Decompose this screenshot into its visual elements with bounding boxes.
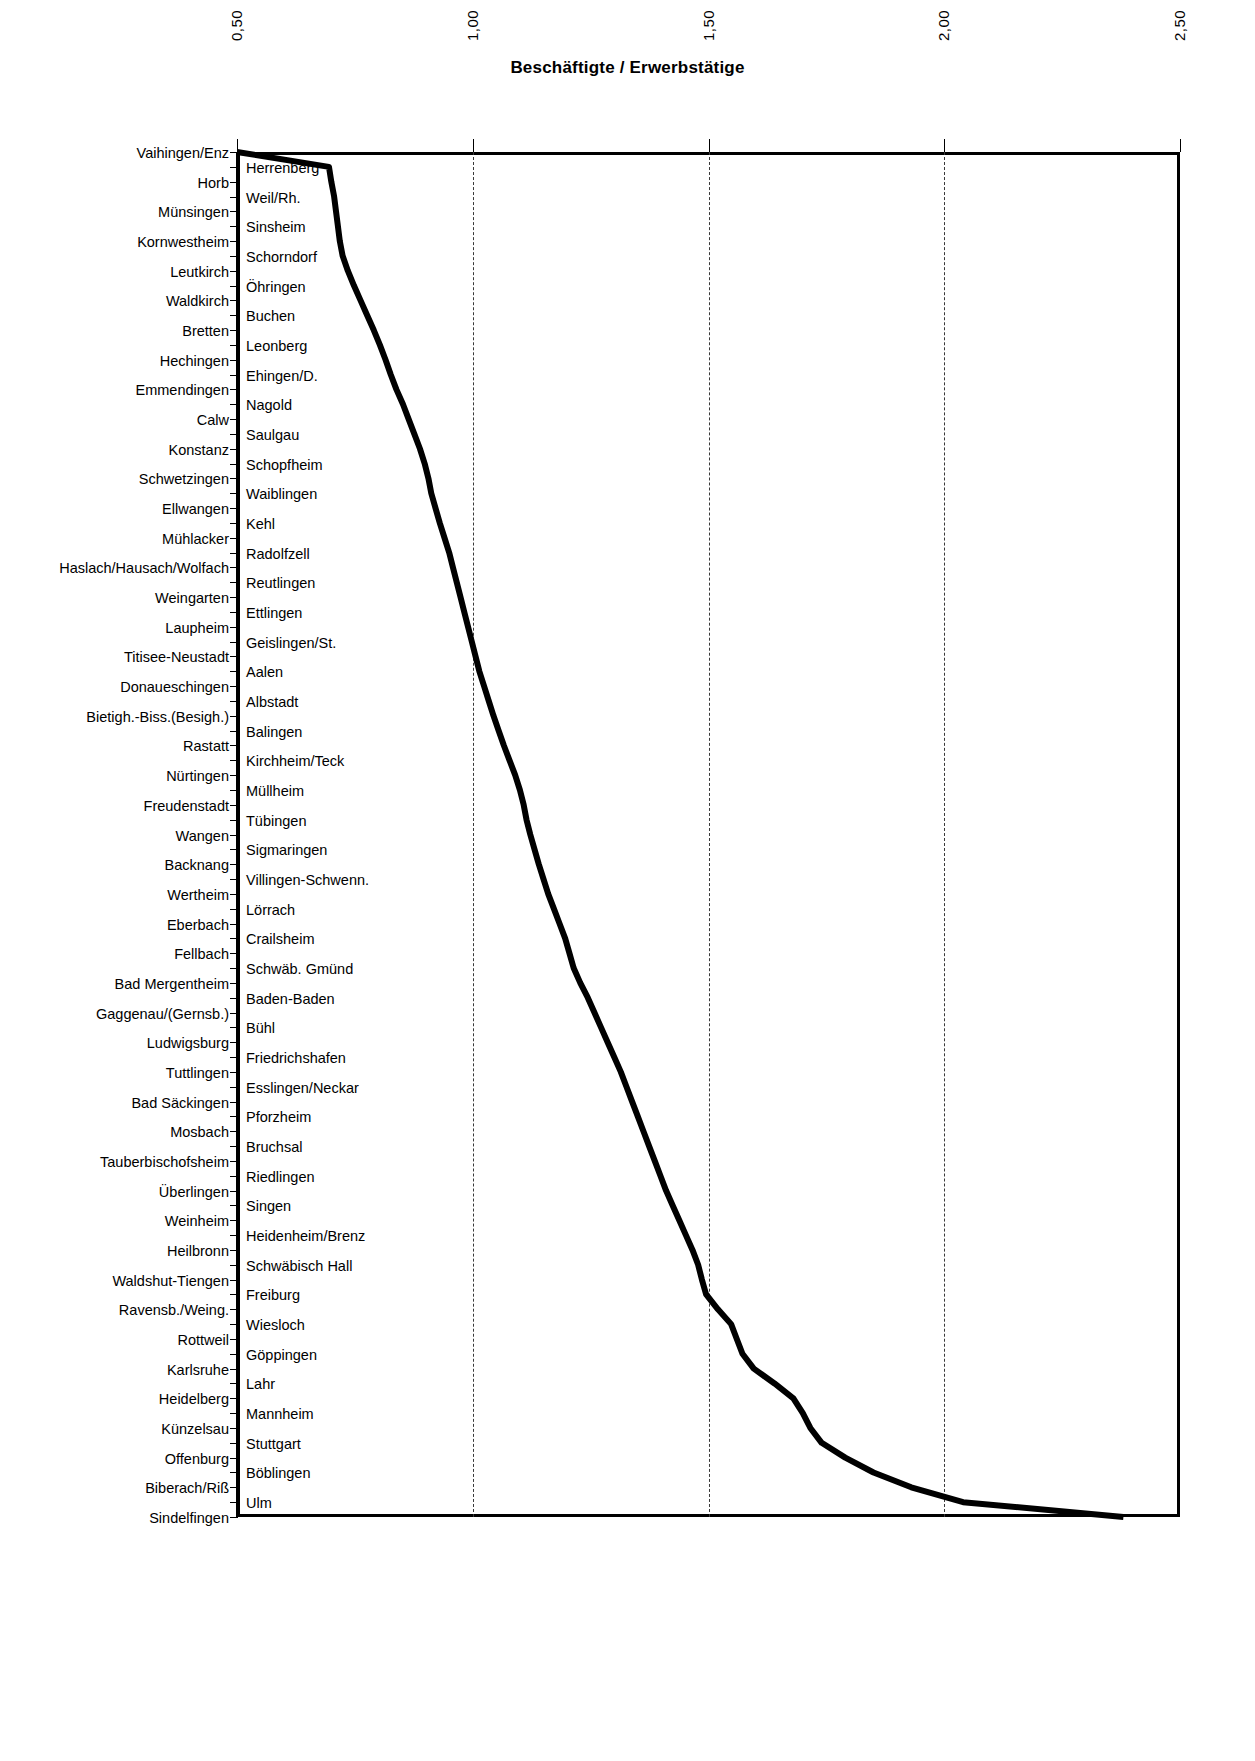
category-label-inner: Herrenberg: [246, 161, 319, 176]
category-label-outer: Weingarten: [0, 591, 229, 606]
category-label-inner: Tübingen: [246, 814, 306, 829]
category-label-inner: Mannheim: [246, 1407, 314, 1422]
category-label-inner: Weil/Rh.: [246, 191, 301, 206]
category-label-inner: Singen: [246, 1199, 291, 1214]
category-label-outer: Rottweil: [0, 1333, 229, 1348]
category-label-outer: Laupheim: [0, 621, 229, 636]
category-label-outer: Schwetzingen: [0, 472, 229, 487]
category-label-outer: Bietigh.-Biss.(Besigh.): [0, 710, 229, 725]
category-label-outer: Hechingen: [0, 354, 229, 369]
x-tick-label: 1,00: [464, 10, 481, 41]
category-label-outer: Tuttlingen: [0, 1066, 229, 1081]
curve-path: [237, 152, 1123, 1517]
category-label-inner: Kehl: [246, 517, 275, 532]
category-label-inner: Riedlingen: [246, 1170, 315, 1185]
category-label-outer: Karlsruhe: [0, 1363, 229, 1378]
x-tick-label: 2,00: [935, 10, 952, 41]
category-label-inner: Schwäbisch Hall: [246, 1259, 352, 1274]
category-label-inner: Lörrach: [246, 903, 295, 918]
category-label-inner: Böblingen: [246, 1466, 311, 1481]
category-label-outer: Biberach/Riß: [0, 1481, 229, 1496]
category-label-outer: Tauberbischofsheim: [0, 1155, 229, 1170]
category-label-inner: Balingen: [246, 725, 302, 740]
category-label-outer: Calw: [0, 413, 229, 428]
category-label-outer: Wertheim: [0, 888, 229, 903]
category-label-inner: Heidenheim/Brenz: [246, 1229, 365, 1244]
category-label-inner: Schorndorf: [246, 250, 317, 265]
category-label-outer: Münsingen: [0, 205, 229, 220]
category-label-outer: Sindelfingen: [0, 1511, 229, 1526]
category-label-inner: Buchen: [246, 309, 295, 324]
category-label-outer: Gaggenau/(Gernsb.): [0, 1007, 229, 1022]
category-label-outer: Waldshut-Tiengen: [0, 1274, 229, 1289]
x-tick: [944, 139, 945, 152]
category-label-outer: Mühlacker: [0, 532, 229, 547]
category-label-outer: Überlingen: [0, 1185, 229, 1200]
category-label-outer: Heilbronn: [0, 1244, 229, 1259]
category-label-inner: Kirchheim/Teck: [246, 754, 344, 769]
category-label-inner: Bühl: [246, 1021, 275, 1036]
category-label-inner: Esslingen/Neckar: [246, 1081, 359, 1096]
y-tick: [230, 1517, 238, 1518]
category-label-inner: Bruchsal: [246, 1140, 302, 1155]
category-label-outer: Donaueschingen: [0, 680, 229, 695]
category-label-inner: Radolfzell: [246, 547, 310, 562]
category-label-inner: Sinsheim: [246, 220, 306, 235]
category-label-outer: Nürtingen: [0, 769, 229, 784]
category-label-inner: Baden-Baden: [246, 992, 335, 1007]
category-label-outer: Offenburg: [0, 1452, 229, 1467]
category-label-inner: Friedrichshafen: [246, 1051, 346, 1066]
x-tick-label: 0,50: [228, 10, 245, 41]
x-tick: [1180, 139, 1181, 152]
chart-title: Beschäftigte / Erwerbstätige: [0, 58, 1255, 78]
category-label-inner: Göppingen: [246, 1348, 317, 1363]
category-label-inner: Aalen: [246, 665, 283, 680]
category-label-outer: Emmendingen: [0, 383, 229, 398]
plot-area: 0,501,001,502,002,50 HerrenbergWeil/Rh.S…: [237, 152, 1180, 1517]
category-label-outer: Rastatt: [0, 739, 229, 754]
category-label-inner: Waiblingen: [246, 487, 317, 502]
category-label-outer: Eberbach: [0, 918, 229, 933]
category-label-outer: Vaihingen/Enz: [0, 146, 229, 161]
category-label-outer: Künzelsau: [0, 1422, 229, 1437]
category-label-outer: Weinheim: [0, 1214, 229, 1229]
category-label-outer: Ludwigsburg: [0, 1036, 229, 1051]
category-label-outer: Horb: [0, 176, 229, 191]
category-label-outer: Ravensb./Weing.: [0, 1303, 229, 1318]
category-label-outer: Bad Mergentheim: [0, 977, 229, 992]
x-tick-label: 1,50: [700, 10, 717, 41]
category-label-inner: Saulgau: [246, 428, 299, 443]
category-label-inner: Lahr: [246, 1377, 275, 1392]
category-label-outer: Titisee-Neustadt: [0, 650, 229, 665]
category-label-inner: Nagold: [246, 398, 292, 413]
data-curve: [237, 152, 1180, 1517]
category-label-outer: Mosbach: [0, 1125, 229, 1140]
category-label-outer: Bad Säckingen: [0, 1096, 229, 1111]
category-label-outer: Backnang: [0, 858, 229, 873]
category-label-outer: Kornwestheim: [0, 235, 229, 250]
category-label-outer: Fellbach: [0, 947, 229, 962]
category-label-outer: Wangen: [0, 829, 229, 844]
category-label-inner: Freiburg: [246, 1288, 300, 1303]
category-label-inner: Öhringen: [246, 280, 306, 295]
category-label-inner: Sigmaringen: [246, 843, 327, 858]
category-label-inner: Ehingen/D.: [246, 369, 318, 384]
category-label-inner: Stuttgart: [246, 1437, 301, 1452]
category-label-outer: Heidelberg: [0, 1392, 229, 1407]
category-label-inner: Ulm: [246, 1496, 272, 1511]
category-label-inner: Crailsheim: [246, 932, 315, 947]
category-label-outer: Ellwangen: [0, 502, 229, 517]
category-label-inner: Villingen-Schwenn.: [246, 873, 369, 888]
category-label-outer: Leutkirch: [0, 265, 229, 280]
category-label-inner: Pforzheim: [246, 1110, 311, 1125]
category-label-outer: Haslach/Hausach/Wolfach: [0, 561, 229, 576]
x-tick: [709, 139, 710, 152]
category-label-inner: Ettlingen: [246, 606, 302, 621]
category-label-inner: Wiesloch: [246, 1318, 305, 1333]
x-tick: [473, 139, 474, 152]
chart-canvas: Beschäftigte / Erwerbstätige 0,501,001,5…: [0, 0, 1255, 1761]
category-label-inner: Müllheim: [246, 784, 304, 799]
category-label-inner: Reutlingen: [246, 576, 315, 591]
category-label-inner: Geislingen/St.: [246, 636, 336, 651]
category-label-inner: Leonberg: [246, 339, 307, 354]
